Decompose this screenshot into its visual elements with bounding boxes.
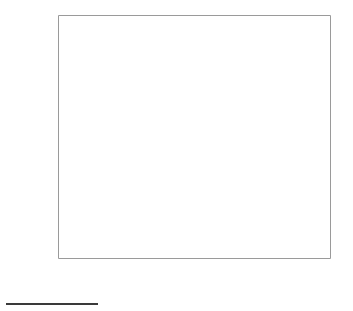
normal-probability-plot xyxy=(0,0,353,311)
chart-canvas xyxy=(0,0,353,311)
scan-edge-rule xyxy=(6,303,98,305)
plot-frame xyxy=(59,16,331,259)
